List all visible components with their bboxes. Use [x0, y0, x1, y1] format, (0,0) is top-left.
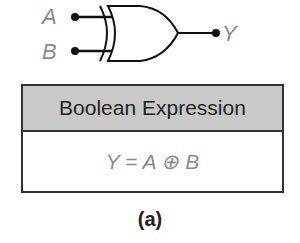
xor-input-curve [100, 6, 107, 61]
boolean-expression: Y = A ⊕ B [106, 150, 200, 174]
figure-caption: (a) [0, 208, 300, 231]
input-label-b: B [42, 39, 57, 64]
output-label-y: Y [222, 21, 238, 46]
xor-gate-diagram: A B Y [0, 0, 300, 75]
table-header: Boolean Expression [23, 86, 282, 132]
xor-gate-body [108, 6, 178, 61]
boolean-expression-table: Boolean Expression Y = A ⊕ B [21, 84, 284, 193]
table-body: Y = A ⊕ B [23, 132, 282, 191]
table-header-label: Boolean Expression [59, 96, 246, 120]
input-label-a: A [40, 4, 57, 29]
output-terminal [212, 29, 220, 37]
